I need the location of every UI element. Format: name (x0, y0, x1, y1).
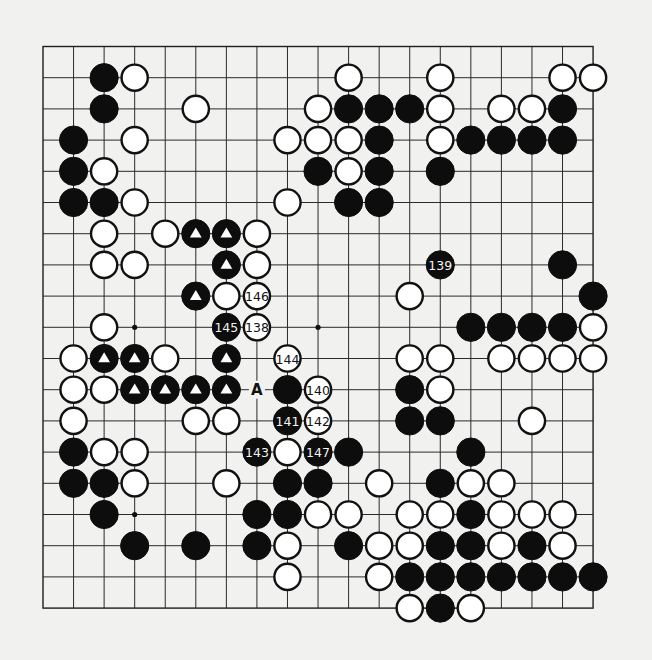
black-stone-marked[interactable] (121, 344, 149, 372)
black-stone[interactable] (59, 438, 87, 466)
white-stone[interactable] (91, 377, 117, 403)
move-146[interactable]: 146 (244, 283, 270, 309)
black-stone[interactable] (426, 407, 454, 435)
black-stone[interactable] (365, 95, 393, 123)
move-139[interactable]: 139 (426, 251, 454, 279)
black-stone[interactable] (548, 95, 576, 123)
white-stone[interactable] (274, 564, 300, 590)
black-stone-marked[interactable] (212, 220, 240, 248)
white-stone[interactable] (549, 501, 575, 527)
black-stone[interactable] (273, 376, 301, 404)
black-stone[interactable] (457, 313, 485, 341)
white-stone[interactable] (519, 96, 545, 122)
white-stone[interactable] (152, 345, 178, 371)
black-stone-marked[interactable] (151, 376, 179, 404)
white-stone[interactable] (427, 65, 453, 91)
black-stone[interactable] (548, 313, 576, 341)
black-stone[interactable] (487, 126, 515, 154)
white-stone[interactable] (580, 345, 606, 371)
move-144[interactable]: 144 (274, 345, 300, 371)
white-stone[interactable] (549, 533, 575, 559)
white-stone[interactable] (274, 189, 300, 215)
move-140[interactable]: 140 (305, 377, 331, 403)
black-stone[interactable] (335, 95, 363, 123)
white-stone[interactable] (305, 501, 331, 527)
white-stone[interactable] (60, 408, 86, 434)
black-stone[interactable] (90, 188, 118, 216)
white-stone[interactable] (427, 501, 453, 527)
black-stone[interactable] (335, 438, 363, 466)
white-stone[interactable] (427, 127, 453, 153)
white-stone[interactable] (305, 96, 331, 122)
black-stone[interactable] (365, 188, 393, 216)
black-stone[interactable] (335, 532, 363, 560)
black-stone[interactable] (90, 469, 118, 497)
white-stone[interactable] (274, 533, 300, 559)
white-stone[interactable] (397, 501, 423, 527)
black-stone-marked[interactable] (121, 376, 149, 404)
white-stone[interactable] (336, 158, 362, 184)
black-stone[interactable] (457, 500, 485, 528)
black-stone-marked[interactable] (212, 376, 240, 404)
black-stone[interactable] (396, 407, 424, 435)
white-stone[interactable] (91, 158, 117, 184)
white-stone[interactable] (122, 470, 148, 496)
move-141[interactable]: 141 (273, 407, 301, 435)
move-145[interactable]: 145 (212, 313, 240, 341)
white-stone[interactable] (488, 501, 514, 527)
black-stone[interactable] (396, 563, 424, 591)
white-stone[interactable] (60, 377, 86, 403)
black-stone[interactable] (90, 64, 118, 92)
white-stone[interactable] (519, 408, 545, 434)
black-stone[interactable] (518, 313, 546, 341)
black-stone-marked[interactable] (212, 251, 240, 279)
black-stone[interactable] (59, 188, 87, 216)
black-stone-marked[interactable] (212, 344, 240, 372)
white-stone[interactable] (91, 314, 117, 340)
white-stone[interactable] (549, 345, 575, 371)
white-stone[interactable] (427, 96, 453, 122)
black-stone[interactable] (579, 563, 607, 591)
white-stone[interactable] (183, 408, 209, 434)
white-stone[interactable] (397, 345, 423, 371)
black-stone[interactable] (426, 157, 454, 185)
white-stone[interactable] (488, 96, 514, 122)
black-stone[interactable] (243, 532, 271, 560)
white-stone[interactable] (427, 377, 453, 403)
black-stone[interactable] (396, 95, 424, 123)
board-label-a[interactable]: A (249, 381, 265, 400)
black-stone[interactable] (273, 500, 301, 528)
white-stone[interactable] (336, 501, 362, 527)
white-stone[interactable] (122, 127, 148, 153)
white-stone[interactable] (488, 533, 514, 559)
black-stone[interactable] (365, 126, 393, 154)
black-stone[interactable] (487, 313, 515, 341)
white-stone[interactable] (427, 345, 453, 371)
white-stone[interactable] (366, 564, 392, 590)
black-stone[interactable] (304, 469, 332, 497)
black-stone[interactable] (426, 469, 454, 497)
black-stone-marked[interactable] (182, 220, 210, 248)
move-147[interactable]: 147 (304, 438, 332, 466)
white-stone[interactable] (213, 408, 239, 434)
black-stone[interactable] (518, 126, 546, 154)
black-stone[interactable] (121, 532, 149, 560)
white-stone[interactable] (488, 345, 514, 371)
black-stone[interactable] (457, 126, 485, 154)
white-stone[interactable] (458, 595, 484, 621)
black-stone[interactable] (59, 157, 87, 185)
black-stone[interactable] (426, 563, 454, 591)
black-stone[interactable] (518, 563, 546, 591)
white-stone[interactable] (488, 470, 514, 496)
black-stone[interactable] (243, 500, 271, 528)
black-stone[interactable] (548, 251, 576, 279)
white-stone[interactable] (213, 283, 239, 309)
black-stone[interactable] (548, 126, 576, 154)
white-stone[interactable] (274, 439, 300, 465)
white-stone[interactable] (519, 501, 545, 527)
white-stone[interactable] (366, 533, 392, 559)
white-stone[interactable] (580, 314, 606, 340)
black-stone[interactable] (518, 532, 546, 560)
black-stone[interactable] (59, 126, 87, 154)
go-board[interactable]: A 138139140141142143144145146147 (0, 0, 652, 660)
